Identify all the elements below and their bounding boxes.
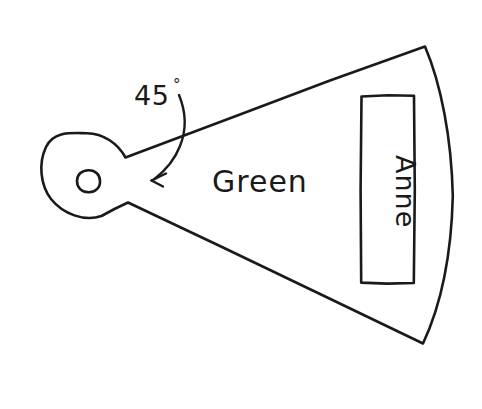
plate-label-anne: Anne <box>390 155 421 228</box>
sector-label-green: Green <box>212 164 308 199</box>
degree-symbol-icon: ° <box>173 76 181 94</box>
angle-label-value: 45 <box>134 80 169 111</box>
hub-hole-icon <box>77 170 100 192</box>
plate-group: Anne <box>361 95 421 283</box>
hub-hole-group <box>77 170 100 192</box>
drawing-canvas: Anne Green 45 ° <box>0 0 482 409</box>
sector-diagram-svg: Anne Green 45 ° <box>0 0 482 409</box>
